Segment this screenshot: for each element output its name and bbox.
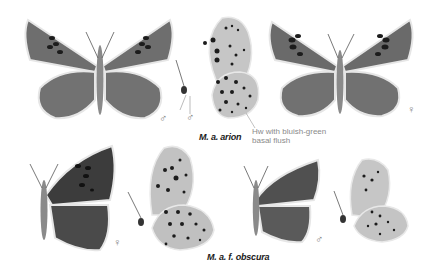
row-label-obscura: M. a. f. obscura [207,252,269,262]
butterfly-obscura-underside-2 [0,0,432,265]
